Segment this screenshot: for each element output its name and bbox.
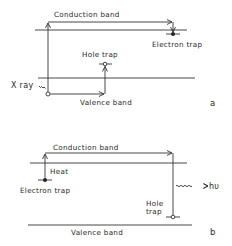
- hole-trap-label-line2-b: trap: [146, 207, 162, 216]
- panel-b: Conduction band Heat Electron trap Hole …: [20, 143, 219, 237]
- conduction-band-label-b: Conduction band: [53, 143, 119, 152]
- panel-label-b: b: [210, 227, 215, 237]
- thermoluminescence-band-diagram: Conduction band Electron trap Hole trap …: [0, 0, 232, 246]
- hole-trap-open-circle-a: [103, 62, 107, 66]
- heat-label: Heat: [50, 167, 68, 176]
- emission-label: hυ: [209, 182, 219, 191]
- panel-a: Conduction band Electron trap Hole trap …: [11, 10, 215, 108]
- panel-label-a: a: [210, 98, 215, 108]
- electron-trap-label-b: Electron trap: [20, 186, 71, 195]
- hole-trap-label-a: Hole trap: [82, 50, 118, 59]
- hole-origin-circle-a: [46, 92, 50, 96]
- xray-label: X ray: [11, 81, 33, 90]
- conduction-band-label-a: Conduction band: [54, 10, 120, 19]
- electron-trap-label-a: Electron trap: [152, 40, 203, 49]
- hole-trap-open-circle-b: [171, 215, 175, 219]
- electron-trap-filled-dot-a: [171, 32, 175, 36]
- xray-wavy-icon: [39, 86, 46, 89]
- photon-wavy-icon: [176, 185, 192, 186]
- valence-band-label-a: Valence band: [80, 98, 132, 107]
- electron-trap-filled-dot-b: [43, 178, 47, 182]
- valence-band-label-b: Valence band: [71, 228, 123, 237]
- photon-arrowhead-icon: [204, 184, 208, 188]
